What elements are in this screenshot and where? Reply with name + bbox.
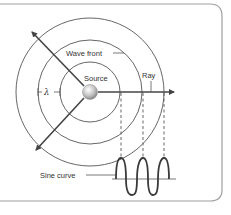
- sine-curve: [116, 158, 169, 195]
- source-icon: [83, 85, 98, 100]
- projection-lines: [121, 93, 164, 158]
- rays: [32, 32, 174, 150]
- sine-curve-label: Sine curve: [40, 171, 75, 180]
- source-label: Source: [84, 74, 108, 83]
- wave-diagram: Wave front Source Ray λ Sine curve: [0, 0, 231, 215]
- lambda-label: λ: [43, 87, 49, 97]
- ray-label: Ray: [142, 71, 156, 80]
- wave-front-label: Wave front: [66, 49, 103, 58]
